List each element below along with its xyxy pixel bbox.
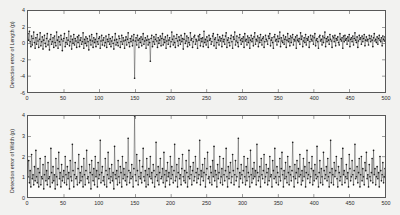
- x-tick-width-8: 400: [310, 200, 319, 206]
- x-tick-width-7: 350: [274, 200, 283, 206]
- series-width: [28, 116, 385, 197]
- x-tick-length-0: 0: [26, 95, 29, 101]
- y-axis-label-width: Detection error of Width (p): [9, 129, 15, 193]
- y-tick-length-5: 4: [22, 7, 25, 13]
- x-tick-width-0: 0: [26, 200, 29, 206]
- y-tick-width-3: 3: [22, 133, 25, 139]
- y-tick-length-4: 2: [22, 24, 25, 30]
- x-tick-width-1: 50: [60, 200, 66, 206]
- chart-panel-length: Detection error of Length (p) -6-4-2024 …: [0, 0, 400, 108]
- y-tick-width-4: 4: [22, 112, 25, 118]
- x-tick-length-2: 100: [94, 95, 103, 101]
- x-tick-length-8: 400: [310, 95, 319, 101]
- y-tick-width-1: 1: [22, 174, 25, 180]
- x-tick-length-6: 300: [238, 95, 247, 101]
- x-tick-length-10: 500: [382, 95, 391, 101]
- x-tick-width-9: 450: [346, 200, 355, 206]
- plot-area-length: [27, 10, 386, 93]
- figure-container: Detection error of Length (p) -6-4-2024 …: [0, 0, 400, 215]
- x-tick-width-6: 300: [238, 200, 247, 206]
- y-tick-length-1: -4: [20, 73, 25, 79]
- y-tick-length-2: -2: [20, 57, 25, 63]
- plot-area-width: [27, 115, 386, 198]
- x-tick-width-5: 250: [202, 200, 211, 206]
- x-tick-width-3: 150: [130, 200, 139, 206]
- x-tick-width-10: 500: [382, 200, 391, 206]
- x-tick-length-1: 50: [60, 95, 66, 101]
- y-axis-label-length: Detection error of Length (p): [9, 21, 15, 88]
- chart-panel-width: Detection error of Width (p) 01234 05010…: [0, 107, 400, 215]
- x-tick-width-4: 200: [166, 200, 175, 206]
- x-tick-length-5: 250: [202, 95, 211, 101]
- y-tick-length-3: 0: [22, 40, 25, 46]
- x-tick-width-2: 100: [94, 200, 103, 206]
- x-tick-length-4: 200: [166, 95, 175, 101]
- series-length: [28, 11, 385, 92]
- y-tick-width-2: 2: [22, 154, 25, 160]
- x-tick-length-7: 350: [274, 95, 283, 101]
- x-tick-length-3: 150: [130, 95, 139, 101]
- x-tick-length-9: 450: [346, 95, 355, 101]
- y-tick-length-0: -6: [20, 90, 25, 96]
